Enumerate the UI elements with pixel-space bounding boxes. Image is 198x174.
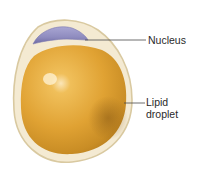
nucleus-label: Nucleus	[148, 34, 186, 46]
lipid-droplet-shadow	[88, 96, 128, 140]
adipocyte-illustration	[0, 0, 198, 174]
lipid-droplet-highlight	[43, 73, 57, 85]
adipocyte-diagram: Nucleus Lipid droplet	[0, 0, 198, 174]
lipid-droplet-label: Lipid droplet	[146, 96, 178, 120]
